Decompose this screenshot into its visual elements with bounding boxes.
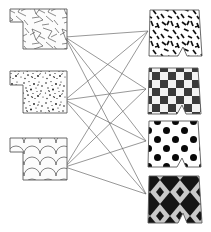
tile-R2-checkerboard[interactable] <box>146 67 203 116</box>
figure-root <box>0 0 211 232</box>
tile-R4-fill <box>146 175 203 224</box>
tile-R3-polka-dots[interactable] <box>146 120 203 169</box>
tile-R1-fill <box>147 9 204 58</box>
tile-R3-fill <box>146 120 203 169</box>
figure-canvas <box>0 0 211 232</box>
tile-R4-argyle-diamonds[interactable] <box>146 175 203 224</box>
tile-R1-dashes-confetti[interactable] <box>147 9 204 58</box>
tile-R2-fill <box>146 67 203 116</box>
